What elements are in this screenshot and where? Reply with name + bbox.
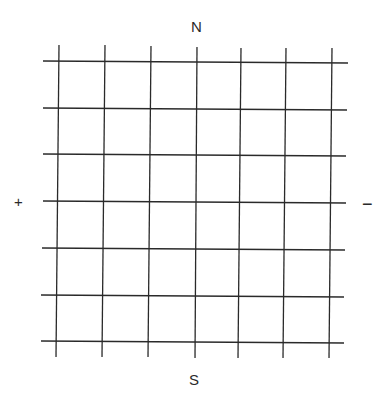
grid-line-h [41,295,344,297]
grid-line-h [43,61,348,63]
label-north: N [191,19,202,34]
grid-line-h [42,248,345,250]
grid-line-v [238,48,241,358]
grid-line-h [43,201,346,203]
label-plus: + [14,194,23,209]
grid-line-h [43,154,346,156]
label-south: S [189,372,199,387]
grid-line-h [43,108,347,110]
label-minus: − [362,195,373,213]
grid-diagram [0,0,386,412]
grid-line-h [41,341,344,343]
